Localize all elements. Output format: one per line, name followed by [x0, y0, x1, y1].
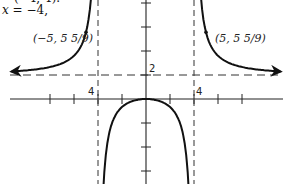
axes — [10, 0, 283, 184]
point-marker — [204, 31, 208, 35]
graph-plot: 2 4 4 (−5, 5 5/9) (5, 5 5/9) — [0, 0, 285, 184]
h-asymptote-label: 2 — [149, 63, 155, 74]
point-right-label: (5, 5 5/9) — [215, 32, 266, 45]
point-left-label: (−5, 5 5/9) — [33, 32, 93, 45]
v-asymptote-left-label: 4 — [88, 86, 94, 97]
v-asymptote-right-label: 4 — [196, 86, 202, 97]
